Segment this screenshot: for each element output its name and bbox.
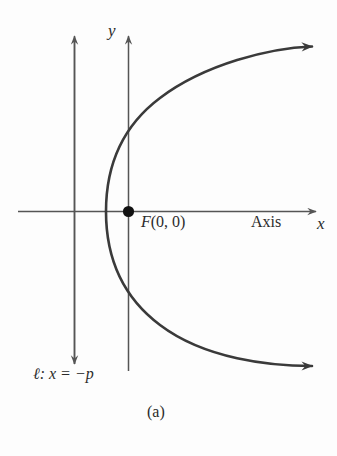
- focus-label-coordinates: (0, 0): [151, 213, 186, 230]
- axis-of-symmetry-label: Axis: [251, 214, 281, 230]
- focus-label: F(0, 0): [141, 214, 185, 230]
- x-axis-label: x: [317, 215, 325, 232]
- y-axis-label: y: [108, 22, 116, 39]
- focus-label-name: F: [141, 213, 151, 230]
- directrix-label: ℓ: x = −p: [33, 366, 94, 382]
- figure-caption: (a): [147, 404, 165, 420]
- focus-point-marker: [123, 206, 134, 217]
